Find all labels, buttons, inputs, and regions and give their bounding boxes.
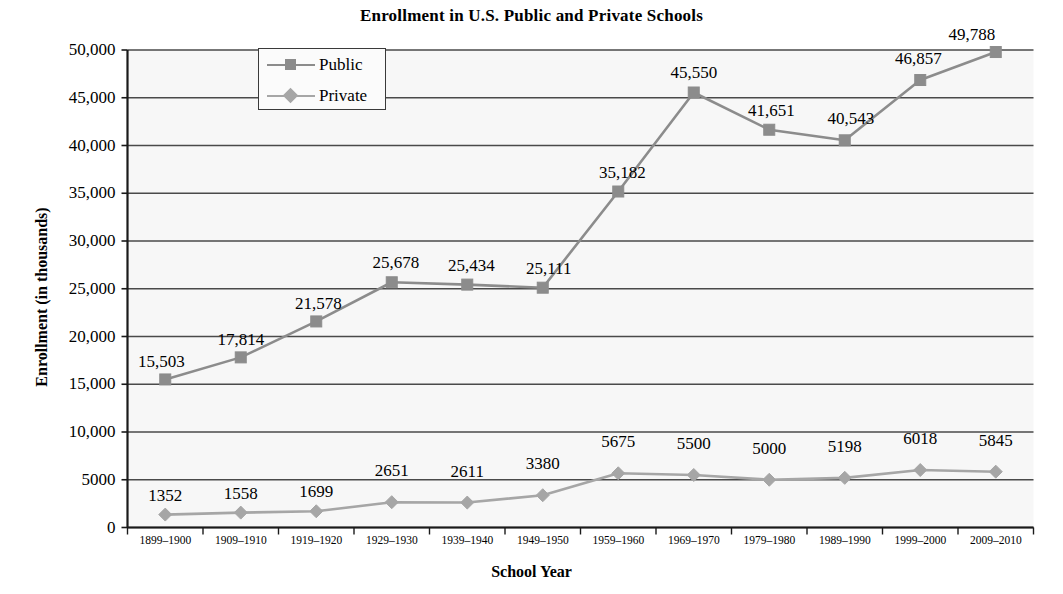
data-value-label: 3380 bbox=[500, 455, 586, 472]
data-value-label: 35,182 bbox=[579, 164, 665, 181]
y-tick-label: 25,000 bbox=[0, 280, 116, 297]
data-value-label: 40,543 bbox=[808, 110, 894, 127]
y-tick-label: 50,000 bbox=[0, 41, 116, 58]
data-value-label: 1699 bbox=[273, 483, 359, 500]
y-tick-label: 45,000 bbox=[0, 89, 116, 106]
data-point-marker[interactable] bbox=[537, 282, 548, 293]
x-tick-label: 1969–1970 bbox=[656, 535, 732, 547]
y-tick-label: 5000 bbox=[0, 471, 116, 488]
data-value-label: 5675 bbox=[575, 433, 661, 450]
data-value-label: 1352 bbox=[122, 487, 208, 504]
legend-item-public[interactable]: Public bbox=[259, 49, 387, 80]
y-tick-label: 40,000 bbox=[0, 137, 116, 154]
legend-item-private[interactable]: Private bbox=[259, 80, 387, 111]
data-value-label: 46,857 bbox=[875, 50, 961, 67]
chart-container: Enrollment in U.S. Public and Private Sc… bbox=[0, 0, 1063, 594]
data-value-label: 25,111 bbox=[506, 260, 592, 277]
y-tick-label: 0 bbox=[0, 519, 116, 536]
data-point-marker[interactable] bbox=[839, 135, 850, 146]
square-marker-icon bbox=[285, 59, 296, 70]
data-point-marker[interactable] bbox=[688, 87, 699, 98]
legend-swatch-private bbox=[265, 86, 317, 106]
plot-area bbox=[0, 0, 1063, 594]
data-value-label: 49,788 bbox=[929, 26, 1015, 43]
legend-label-public: Public bbox=[317, 56, 362, 73]
legend-swatch-public bbox=[265, 55, 317, 75]
data-value-label: 5198 bbox=[802, 438, 888, 455]
diamond-marker-icon bbox=[283, 87, 299, 103]
x-tick-label: 2009–2010 bbox=[958, 535, 1034, 547]
data-value-label: 2651 bbox=[349, 462, 435, 479]
data-value-label: 45,550 bbox=[651, 64, 737, 81]
y-tick-label: 10,000 bbox=[0, 423, 116, 440]
x-tick-label: 1899–1900 bbox=[128, 535, 204, 547]
data-value-label: 1558 bbox=[198, 485, 284, 502]
data-value-label: 5845 bbox=[953, 432, 1039, 449]
y-tick-label: 20,000 bbox=[0, 328, 116, 345]
y-tick-label: 15,000 bbox=[0, 375, 116, 392]
legend: Public Private bbox=[258, 48, 386, 110]
x-tick-label: 1919–1920 bbox=[279, 535, 355, 547]
y-tick-label: 30,000 bbox=[0, 232, 116, 249]
data-value-label: 5500 bbox=[651, 435, 737, 452]
data-point-marker[interactable] bbox=[764, 124, 775, 135]
data-point-marker[interactable] bbox=[915, 75, 926, 86]
data-point-marker[interactable] bbox=[462, 279, 473, 290]
data-value-label: 21,578 bbox=[275, 295, 361, 312]
x-tick-label: 1939–1940 bbox=[430, 535, 506, 547]
data-point-marker[interactable] bbox=[386, 277, 397, 288]
x-tick-label: 1979–1980 bbox=[732, 535, 808, 547]
data-point-marker[interactable] bbox=[311, 316, 322, 327]
y-tick-label: 35,000 bbox=[0, 184, 116, 201]
data-value-label: 25,434 bbox=[428, 257, 514, 274]
x-tick-label: 1909–1910 bbox=[203, 535, 279, 547]
data-value-label: 25,678 bbox=[353, 254, 439, 271]
data-point-marker[interactable] bbox=[613, 186, 624, 197]
data-point-marker[interactable] bbox=[990, 47, 1001, 58]
x-tick-label: 1929–1930 bbox=[354, 535, 430, 547]
data-value-label: 17,814 bbox=[198, 331, 284, 348]
x-tick-label: 1949–1950 bbox=[505, 535, 581, 547]
data-value-label: 2611 bbox=[424, 463, 510, 480]
data-value-label: 5000 bbox=[726, 440, 812, 457]
data-value-label: 6018 bbox=[877, 430, 963, 447]
x-tick-label: 1959–1960 bbox=[581, 535, 657, 547]
data-point-marker[interactable] bbox=[235, 352, 246, 363]
legend-label-private: Private bbox=[317, 87, 367, 104]
x-tick-label: 1999–2000 bbox=[883, 535, 959, 547]
data-point-marker[interactable] bbox=[160, 374, 171, 385]
data-value-label: 15,503 bbox=[118, 353, 204, 370]
data-value-label: 41,651 bbox=[728, 102, 814, 119]
x-tick-label: 1989–1990 bbox=[807, 535, 883, 547]
